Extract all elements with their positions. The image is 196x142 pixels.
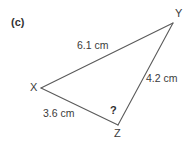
- vertex-label-x: X: [30, 82, 37, 93]
- vertex-label-z: Z: [114, 128, 121, 139]
- side-length-label-xy: 6.1 cm: [77, 40, 109, 51]
- triangle-drawing: [0, 0, 196, 142]
- side-length-label-xz: 3.6 cm: [43, 108, 75, 119]
- side-length-label-yz: 4.2 cm: [146, 73, 178, 84]
- unknown-angle-label: ?: [110, 105, 117, 116]
- geometry-figure: (c) X Y Z 6.1 cm 4.2 cm 3.6 cm ?: [0, 0, 196, 142]
- vertex-label-y: Y: [175, 8, 182, 19]
- part-label: (c): [11, 17, 24, 28]
